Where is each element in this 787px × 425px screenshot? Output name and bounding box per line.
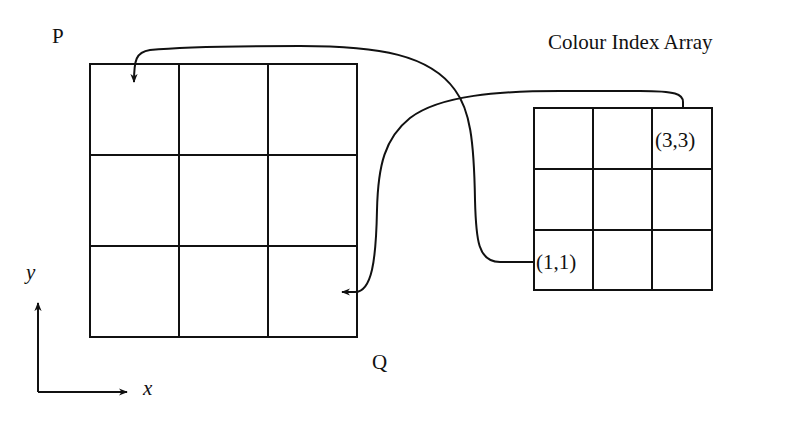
corner-label-q: Q <box>372 352 387 373</box>
cell-label-1-1: (1,1) <box>536 252 576 273</box>
corner-label-p: P <box>52 26 64 47</box>
diagram-graphics <box>0 0 787 425</box>
array-title: Colour Index Array <box>548 32 712 53</box>
diagram-canvas: P Colour Index Array Q (3,3) (1,1) y x <box>0 0 787 425</box>
coordinate-axes <box>38 303 127 392</box>
y-axis-label: y <box>26 262 35 283</box>
cell-label-3-3: (3,3) <box>655 130 695 151</box>
x-axis-label: x <box>143 378 152 399</box>
target-grid <box>90 64 357 337</box>
